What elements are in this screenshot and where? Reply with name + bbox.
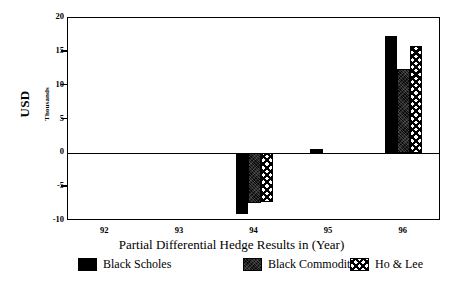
legend-label: Black Scholes [103,257,171,272]
legend-swatch-icon [350,258,369,271]
y-axis-label: 5 [60,114,64,123]
x-axis-title: Partial Differential Hedge Results in (Y… [0,237,463,253]
legend-label: Black Commodity [268,257,356,272]
legend-label: Ho & Lee [375,257,423,272]
bar-96-black-commodity [397,69,409,153]
legend-swatch-icon [78,258,97,271]
y-axis-subtitle: Thousands [43,77,51,131]
x-axis-label: 92 [84,225,124,235]
x-axis-label: 93 [159,225,199,235]
legend-entry-ho-lee[interactable]: Ho & Lee [350,255,423,273]
y-axis-label: 10 [56,80,65,89]
x-axis-label: 95 [308,225,348,235]
legend-entry-black-commodity[interactable]: Black Commodity [243,255,356,273]
bar-95-black-scholes [310,149,322,154]
plot-area [67,17,440,220]
x-axis-label: 96 [383,225,423,235]
y-axis-label: 20 [56,12,65,21]
chart-legend: Black ScholesBlack CommodityHo & Lee [0,255,463,277]
bar-94-ho-lee [261,153,273,202]
bar-94-black-scholes [236,153,248,213]
bar-chart: USD Thousands 20151050-5-10 9293949596 P… [0,0,463,285]
y-axis-label: 15 [56,46,65,55]
y-axis-label: -10 [53,215,64,224]
legend-swatch-icon [243,258,262,271]
y-axis-label: 0 [60,147,64,156]
bar-96-black-scholes [385,36,397,154]
bar-96-ho-lee [410,46,422,154]
y-axis-label: -5 [57,181,64,190]
x-axis-label: 94 [234,225,274,235]
y-axis-title: USD [17,74,33,134]
legend-entry-black-scholes[interactable]: Black Scholes [78,255,171,273]
bar-94-black-commodity [248,153,260,202]
